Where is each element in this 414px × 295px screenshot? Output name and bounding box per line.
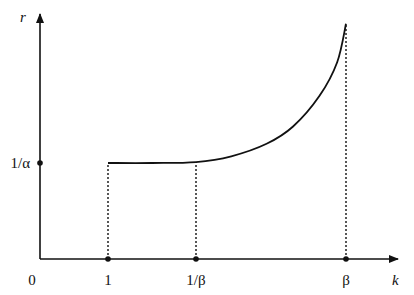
y-tick-label: 1/α [10,155,30,171]
x-tick-label: β [342,272,350,288]
tick-labels: 011/ββ1/α [10,155,349,288]
series-line-r-of-k [108,24,346,163]
y-tick-dot [37,160,43,166]
x-axis-label: k [392,272,399,288]
x-tick-dot [343,256,349,262]
y-axis-label: r [20,9,26,25]
reference-lines [108,24,346,259]
x-tick-dot [193,256,199,262]
chart: 011/ββ1/α k r [0,0,414,295]
x-tick-label: 0 [28,272,36,288]
x-tick-label: 1 [104,272,112,288]
tick-dots [37,160,349,262]
x-tick-dot [105,256,111,262]
x-tick-label: 1/β [186,272,205,288]
